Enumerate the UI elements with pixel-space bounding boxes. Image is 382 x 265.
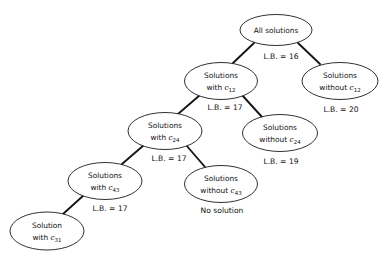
node-outline-solutions-without-c24: [243, 115, 318, 152]
edge-c12-to-with-c24: [178, 95, 200, 114]
lb-17-c24: L.B. = 17: [151, 154, 186, 163]
node-solutions-with-c24[interactable]: Solutionswith c24: [128, 113, 202, 150]
node-solutions-without-c43[interactable]: Solutionswithout c43: [185, 166, 258, 203]
tree-canvas: All solutionsSolutionswith c12Solutionsw…: [0, 0, 382, 265]
edge-all-to-with-c12: [233, 43, 254, 63]
node-label-line1-solution-with-c31: Solution: [32, 221, 62, 230]
no-solution-note: No solution: [201, 206, 244, 215]
node-outline-solutions-without-c43: [185, 166, 258, 203]
node-outline-solutions-with-c12: [185, 63, 258, 100]
lb-17-c12: L.B. = 17: [207, 103, 242, 112]
nodes-group: All solutionsSolutionswith c12Solutionsw…: [10, 15, 378, 251]
leaf-notes-group: No solution: [201, 206, 244, 215]
node-outline-solution-with-c31: [10, 212, 84, 250]
node-outline-solutions-with-c43: [68, 163, 142, 200]
node-label-line1-solutions-with-c43: Solutions: [88, 171, 122, 180]
node-label-line1-solutions-without-c43: Solutions: [204, 174, 238, 183]
node-solutions-without-c12[interactable]: Solutionswithout c12: [302, 63, 378, 100]
edge-c24-to-without-c43: [186, 145, 205, 167]
node-label-line1-solutions-without-c12: Solutions: [323, 71, 357, 80]
node-label-line1-solutions-without-c24: Solutions: [263, 123, 297, 132]
node-label-line1-solutions-with-c12: Solutions: [204, 71, 238, 80]
node-outline-solutions-with-c24: [128, 113, 202, 150]
node-label-all-solutions: All solutions: [254, 26, 299, 35]
lb-16: L.B. = 16: [263, 52, 298, 61]
lb-20: L.B. = 20: [323, 105, 358, 114]
node-solutions-with-c12[interactable]: Solutionswith c12: [185, 63, 258, 100]
node-solutions-with-c43[interactable]: Solutionswith c43: [68, 163, 142, 200]
lb-17-c43: L.B. = 17: [92, 204, 127, 213]
branch-and-bound-tree-diagram: All solutionsSolutionswith c12Solutionsw…: [0, 0, 382, 265]
edge-all-to-without-c12: [298, 43, 320, 64]
lb-19: L.B. = 19: [263, 157, 298, 166]
edge-c43-to-with-c31: [63, 195, 84, 214]
node-solution-with-c31[interactable]: Solutionwith c31: [10, 212, 84, 250]
node-all-solutions[interactable]: All solutions: [240, 15, 312, 46]
edge-c24-to-with-c43: [122, 145, 144, 164]
edge-c12-to-without-c24: [242, 95, 262, 117]
node-solutions-without-c24[interactable]: Solutionswithout c24: [243, 115, 318, 152]
node-label-line1-solutions-with-c24: Solutions: [148, 121, 182, 130]
node-outline-solutions-without-c12: [302, 63, 378, 100]
